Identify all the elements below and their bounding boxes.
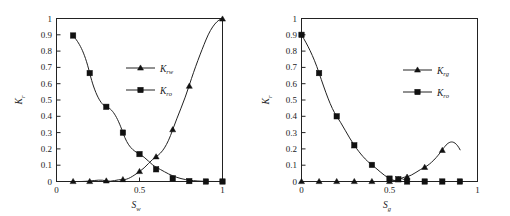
svg-text:Sw: Sw — [131, 200, 141, 212]
left-legend-label-krw-sub: rw — [166, 68, 174, 75]
left-xaxis-title-sub: w — [136, 205, 141, 212]
right-legend-item-krg: Krg — [403, 66, 450, 78]
right-ytick-label-8: 0.8 — [286, 46, 298, 56]
right-ytick-label-1: 0.1 — [286, 160, 297, 170]
right-chart-svg: 0 0.1 0.2 0.3 0.4 0.5 0.6 0.7 0.8 0.9 1 … — [255, 0, 510, 216]
right-legend: Krg Kro — [403, 66, 450, 100]
left-ytick-label-6: 0.6 — [41, 79, 53, 89]
left-yaxis-title-sub: r — [19, 95, 26, 98]
right-yaxis-title-sub: r — [266, 95, 273, 98]
right-xaxis-title: Sg — [383, 200, 392, 212]
svg-text:Kro: Kro — [159, 86, 173, 98]
left-ytick-label-2: 0.2 — [41, 144, 52, 154]
right-ytick-label-5: 0.5 — [286, 95, 298, 105]
right-plot-frame — [302, 19, 478, 182]
left-ytick-label-9: 0.9 — [41, 30, 53, 40]
right-ytick-label-6: 0.6 — [286, 79, 298, 89]
left-ytick-label-7: 0.7 — [41, 62, 53, 72]
left-chart-svg: 0 0.1 0.2 0.3 0.4 0.5 0.6 0.7 0.8 0.9 1 … — [0, 0, 255, 216]
left-legend-label-kro-sub: ro — [166, 90, 172, 97]
right-ytick-label-2: 0.2 — [286, 144, 297, 154]
right-xtick-label-1: 0.5 — [384, 185, 396, 195]
chart-panel-left: 0 0.1 0.2 0.3 0.4 0.5 0.6 0.7 0.8 0.9 1 … — [0, 0, 255, 216]
left-xtick-label-2: 1 — [220, 185, 225, 195]
left-series-kro-curve — [73, 36, 222, 182]
left-xaxis-title: Sw — [131, 200, 141, 212]
right-ytick-label-10: 1 — [293, 14, 298, 24]
left-legend: Krw Kro — [126, 64, 174, 98]
right-ytick-label-9: 0.9 — [286, 30, 298, 40]
chart-panel-right: 0 0.1 0.2 0.3 0.4 0.5 0.6 0.7 0.8 0.9 1 … — [255, 0, 510, 216]
left-series-krw-markers — [70, 16, 225, 184]
right-xtick-label-2: 1 — [475, 185, 480, 195]
right-legend-label-krg-sub: rg — [443, 70, 449, 77]
left-legend-item-kro: Kro — [126, 86, 173, 98]
left-yaxis-title: Kr — [14, 95, 26, 105]
svg-text:Kr: Kr — [14, 95, 26, 105]
right-ytick-label-7: 0.7 — [286, 62, 298, 72]
left-legend-item-krw: Krw — [126, 64, 174, 76]
left-plot-frame — [57, 19, 223, 182]
right-legend-item-kro: Kro — [403, 88, 450, 100]
svg-text:Sg: Sg — [383, 200, 392, 212]
svg-text:Krw: Krw — [159, 64, 174, 76]
figure-container: 0 0.1 0.2 0.3 0.4 0.5 0.6 0.7 0.8 0.9 1 … — [0, 0, 510, 216]
left-ytick-label-4: 0.4 — [41, 111, 53, 121]
svg-text:Kr: Kr — [261, 95, 273, 105]
right-xtick-label-0: 0 — [299, 185, 304, 195]
left-series-kro-markers — [70, 33, 225, 184]
left-ytick-label-8: 0.8 — [41, 46, 53, 56]
right-legend-label-kro-sub: ro — [443, 92, 449, 99]
right-series-krg-curve — [302, 142, 461, 182]
right-ytick-label-4: 0.4 — [286, 111, 298, 121]
right-xaxis-title-sub: g — [388, 205, 392, 212]
left-y-ticks — [57, 19, 61, 182]
svg-text:Kro: Kro — [436, 88, 450, 100]
svg-text:Krg: Krg — [436, 66, 450, 78]
left-ytick-label-10: 1 — [48, 14, 53, 24]
right-y-ticks — [302, 19, 306, 182]
left-xtick-label-0: 0 — [54, 185, 59, 195]
left-series-krw-curve — [73, 19, 222, 182]
right-series-kro-markers — [299, 32, 463, 184]
left-ytick-label-0: 0 — [48, 177, 53, 187]
left-ytick-label-5: 0.5 — [41, 95, 53, 105]
left-ytick-label-1: 0.1 — [41, 160, 52, 170]
left-ytick-label-3: 0.3 — [41, 128, 53, 138]
right-yaxis-title: Kr — [261, 95, 273, 105]
left-xtick-label-1: 0.5 — [134, 185, 146, 195]
right-ytick-label-3: 0.3 — [286, 128, 298, 138]
right-series-kro-curve — [302, 35, 478, 182]
right-ytick-label-0: 0 — [293, 177, 298, 187]
